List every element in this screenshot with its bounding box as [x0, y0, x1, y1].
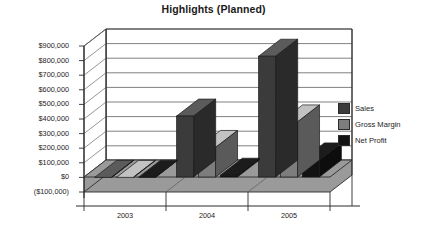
x-axis-tick-label: 2005 — [248, 211, 330, 220]
legend-item-sales[interactable]: Sales — [338, 100, 401, 116]
legend-label: Gross Margin — [355, 120, 401, 129]
bar-sales-2005 — [259, 39, 298, 177]
bar-front-face — [259, 56, 276, 177]
x-axis-tick-label: 2003 — [84, 211, 166, 220]
legend-swatch-icon — [338, 119, 350, 130]
bar-side-face — [276, 39, 298, 177]
legend-swatch-icon — [338, 103, 350, 114]
bar-front-face — [220, 175, 237, 177]
plot-left-wall — [84, 29, 106, 177]
legend-label: Sales — [355, 104, 374, 113]
legend-swatch-icon — [338, 135, 350, 146]
chart-container: Highlights (Planned) $900,000$800,000$70… — [0, 0, 427, 236]
x-axis-tick-label: 2004 — [166, 211, 248, 220]
chart-legend: SalesGross MarginNet Profit — [338, 100, 401, 148]
bar-front-face — [177, 116, 194, 177]
legend-item-gross-margin[interactable]: Gross Margin — [338, 116, 401, 132]
legend-label: Net Profit — [355, 136, 387, 145]
legend-item-net-profit[interactable]: Net Profit — [338, 132, 401, 148]
